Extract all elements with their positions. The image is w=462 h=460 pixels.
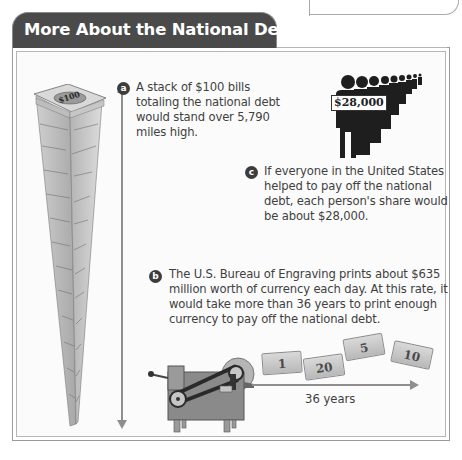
marker-a: a <box>117 82 130 95</box>
fact-b-line: The U.S. Bureau of Engraving prints abou… <box>169 267 448 282</box>
fact-a-text: A stack of $100 bills totaling the natio… <box>136 80 280 140</box>
timeline-arrow-line <box>252 384 412 386</box>
fact-b-line: currency to pay off the national debt. <box>169 312 448 327</box>
arrow-down-icon <box>117 420 127 429</box>
bill-1: 1 <box>261 351 302 376</box>
fact-a-line: A stack of $100 bills <box>136 80 280 95</box>
fact-c-line: be about $28,000. <box>264 209 448 224</box>
marker-c: c <box>245 166 258 179</box>
top-decorative-frame <box>309 0 459 15</box>
timeline-label: 36 years <box>305 392 355 406</box>
money-stack-illustration <box>30 84 115 430</box>
header-rule <box>277 47 447 48</box>
fact-c-line: debt, each person's share would <box>264 194 448 209</box>
fact-c-line: If everyone in the United States <box>264 164 448 179</box>
fact-c-line: helped to pay off the national <box>264 179 448 194</box>
marker-b: b <box>149 270 162 283</box>
fact-b-line: million worth of currency each day. At t… <box>169 282 448 297</box>
fact-a-line: totaling the national debt <box>136 95 280 110</box>
fact-a-line: would stand over 5,790 <box>136 110 280 125</box>
per-person-share-badge: $28,000 <box>331 95 387 111</box>
page-title: More About the National Debt <box>24 20 298 39</box>
fact-b-text: The U.S. Bureau of Engraving prints abou… <box>169 267 448 327</box>
fact-c-text: If everyone in the United States helped … <box>264 164 448 224</box>
fact-a-line: miles high. <box>136 125 280 140</box>
top-frame-line <box>309 0 310 16</box>
height-arrow-line <box>121 92 123 422</box>
arrow-right-icon <box>410 380 419 390</box>
people-line-illustration <box>332 72 432 160</box>
fact-b-line: would take more than 36 years to print e… <box>169 297 448 312</box>
printing-press-illustration <box>146 352 256 434</box>
